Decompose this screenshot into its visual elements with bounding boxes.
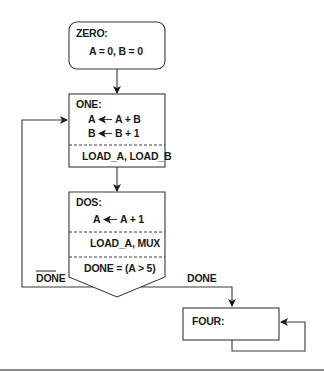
state-one-action-2-rhs: B + 1 — [115, 127, 140, 139]
state-dos: DOS: A A + 1 LOAD_A, MUX DONE = (A > 5) — [69, 192, 165, 297]
label-not-done: DONE — [36, 272, 66, 284]
label-done: DONE — [187, 272, 217, 284]
state-one-action-1-rhs: A + B — [115, 113, 141, 125]
state-dos-action-rhs: A + 1 — [120, 213, 144, 225]
asm-chart: ZERO: A = 0, B = 0 ONE: A A + B B B + 1 … — [0, 0, 324, 371]
state-dos-name: DOS: — [76, 196, 101, 208]
state-one: ONE: A A + B B B + 1 LOAD_A, LOAD_B — [69, 94, 172, 167]
state-four-name: FOUR: — [192, 315, 224, 327]
arrow-dos-to-four-done — [141, 287, 232, 306]
state-dos-signals: LOAD_A, MUX — [90, 237, 160, 249]
state-four: FOUR: — [183, 308, 279, 340]
state-one-action-1-lhs: A — [88, 113, 96, 125]
state-dos-condition: DONE = (A > 5) — [84, 262, 156, 274]
state-zero-name: ZERO: — [76, 27, 108, 39]
state-dos-action-lhs: A — [93, 213, 101, 225]
state-one-signals: LOAD_A, LOAD_B — [82, 150, 172, 162]
state-one-name: ONE: — [76, 98, 101, 110]
state-zero-action: A = 0, B = 0 — [89, 45, 143, 57]
state-one-action-2-lhs: B — [88, 127, 96, 139]
state-zero: ZERO: A = 0, B = 0 — [69, 22, 165, 69]
